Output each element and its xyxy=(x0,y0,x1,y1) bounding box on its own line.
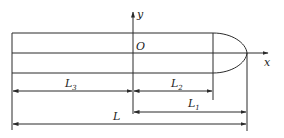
origin-label: O xyxy=(136,40,145,53)
x-axis-label: x xyxy=(264,56,271,69)
L2-label: L2 xyxy=(170,77,183,92)
y-axis-label: y xyxy=(136,8,144,21)
dimension-L2: L2 xyxy=(134,77,212,92)
body-outline xyxy=(12,33,247,131)
coordinate-axes: x y O xyxy=(12,8,271,114)
dimension-L1: L1 xyxy=(134,97,246,112)
dimension-L3: L3 xyxy=(13,77,132,92)
diagram-canvas: x y O L3 L2 L1 L xyxy=(0,0,284,138)
L1-label: L1 xyxy=(187,97,200,112)
L3-label: L3 xyxy=(64,77,77,92)
L-label: L xyxy=(112,110,120,123)
